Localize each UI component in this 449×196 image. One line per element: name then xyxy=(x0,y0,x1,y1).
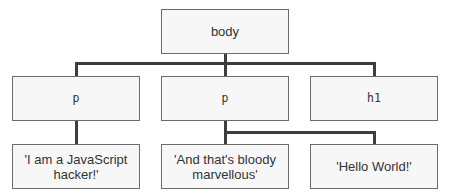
dom-tree-diagram: body p p h1 'I am a JavaScript hacker!' … xyxy=(0,0,449,196)
node-p-first: p xyxy=(12,76,140,121)
connector-to-text3 xyxy=(373,131,376,144)
connector-level2-horizontal xyxy=(224,131,376,134)
text-node-javascript-hacker-label: 'I am a JavaScript hacker!' xyxy=(19,152,133,182)
node-p-second: p xyxy=(161,76,289,121)
text-node-javascript-hacker: 'I am a JavaScript hacker!' xyxy=(12,144,140,189)
node-h1-label: h1 xyxy=(367,91,381,106)
text-node-bloody-marvellous: 'And that's bloody marvellous' xyxy=(161,144,289,189)
text-node-hello-world: 'Hello World!' xyxy=(310,144,438,189)
text-node-bloody-marvellous-label: 'And that's bloody marvellous' xyxy=(168,152,282,182)
node-body-label: body xyxy=(211,24,239,39)
connector-to-p2 xyxy=(224,62,227,76)
connector-to-p1 xyxy=(75,62,78,76)
node-p-first-label: p xyxy=(73,91,80,106)
text-node-hello-world-label: 'Hello World!' xyxy=(336,159,412,174)
node-body: body xyxy=(161,9,289,54)
node-h1: h1 xyxy=(310,76,438,121)
connector-to-h1 xyxy=(373,62,376,76)
node-p-second-label: p xyxy=(222,91,229,106)
connector-p1-to-text1 xyxy=(75,121,78,144)
